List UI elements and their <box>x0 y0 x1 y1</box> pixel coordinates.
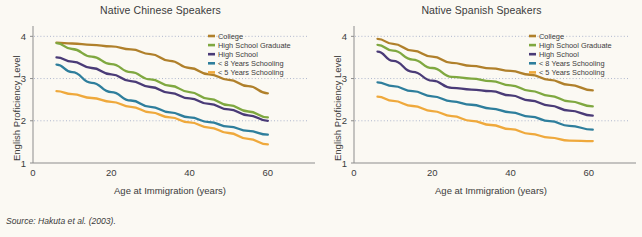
svg-text:High School Graduate: High School Graduate <box>539 41 612 50</box>
y-axis-label-chinese: English Proficiency Level <box>11 55 22 161</box>
chart-panel-spanish: Native Spanish Speakers 12340204060Colle… <box>321 0 642 210</box>
svg-text:High School Graduate: High School Graduate <box>218 41 291 50</box>
svg-text:College: College <box>539 32 564 41</box>
svg-text:40: 40 <box>184 167 195 178</box>
svg-text:College: College <box>218 32 243 41</box>
svg-text:4: 4 <box>21 31 26 42</box>
charts-row: Native Chinese Speakers 12340204060Colle… <box>0 0 642 210</box>
source-note: Source: Hakuta et al. (2003). <box>6 216 116 226</box>
x-axis-label-spanish: Age at Immigration (years) <box>354 185 628 196</box>
svg-text:0: 0 <box>351 167 356 178</box>
svg-text:< 5 Years Schooling: < 5 Years Schooling <box>539 68 605 77</box>
chart-panel-chinese: Native Chinese Speakers 12340204060Colle… <box>0 0 321 210</box>
svg-text:60: 60 <box>263 167 274 178</box>
y-axis-label-spanish: English Proficiency Level <box>332 55 343 161</box>
x-axis-label-chinese: Age at Immigration (years) <box>33 185 307 196</box>
svg-text:High School: High School <box>539 50 579 59</box>
svg-text:20: 20 <box>427 167 438 178</box>
svg-text:0: 0 <box>30 167 35 178</box>
figure-container: Native Chinese Speakers 12340204060Colle… <box>0 0 642 237</box>
svg-text:< 8 Years Schooling: < 8 Years Schooling <box>218 59 284 68</box>
line-chart-spanish: 12340204060CollegeHigh School GraduateHi… <box>321 0 642 210</box>
svg-text:4: 4 <box>342 31 347 42</box>
svg-text:60: 60 <box>584 167 595 178</box>
svg-text:< 5 Years Schooling: < 5 Years Schooling <box>218 68 284 77</box>
svg-text:20: 20 <box>106 167 117 178</box>
svg-text:High School: High School <box>218 50 258 59</box>
svg-text:40: 40 <box>505 167 516 178</box>
line-chart-chinese: 12340204060CollegeHigh School GraduateHi… <box>0 0 321 210</box>
svg-text:< 8 Years Schooling: < 8 Years Schooling <box>539 59 605 68</box>
